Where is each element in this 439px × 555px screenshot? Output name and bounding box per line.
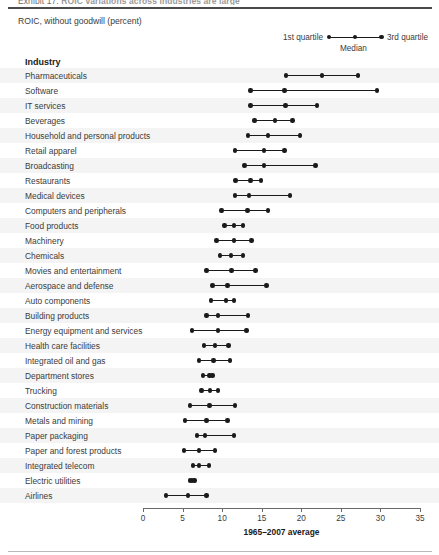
industry-column-header: Industry	[25, 57, 61, 67]
row-median-dot-icon	[225, 283, 229, 287]
x-axis-tick-label: 20	[297, 514, 306, 523]
table-row[interactable]: Department stores	[0, 368, 439, 383]
table-row[interactable]: Building products	[0, 308, 439, 323]
table-row[interactable]: Construction materials	[0, 398, 439, 413]
row-q1-dot-icon	[164, 493, 168, 497]
row-range-track	[143, 353, 420, 368]
table-row[interactable]: Auto components	[0, 293, 439, 308]
table-row[interactable]: Energy equipment and services	[0, 323, 439, 338]
row-median-dot-icon	[211, 358, 215, 362]
x-axis-tick	[341, 508, 342, 512]
x-axis-tick-label: 5	[180, 514, 185, 523]
row-range-track	[143, 98, 420, 113]
row-median-dot-icon	[207, 403, 211, 407]
table-row[interactable]: Airlines	[0, 488, 439, 503]
row-q3-dot-icon	[298, 133, 302, 137]
row-q1-dot-icon	[195, 433, 199, 437]
x-axis-tick-label: 10	[218, 514, 227, 523]
row-range-bar	[248, 135, 299, 136]
table-row[interactable]: Integrated oil and gas	[0, 353, 439, 368]
table-row[interactable]: Movies and entertainment	[0, 263, 439, 278]
table-row[interactable]: Restaurants	[0, 173, 439, 188]
row-range-bar	[206, 315, 248, 316]
row-range-track	[143, 68, 420, 83]
row-q3-dot-icon	[259, 178, 263, 182]
table-row[interactable]: Metals and mining	[0, 413, 439, 428]
x-axis-tick-label: 25	[336, 514, 345, 523]
row-range-track	[143, 383, 420, 398]
row-q3-dot-icon	[204, 493, 208, 497]
legend-range-marker	[326, 33, 384, 42]
row-range-track	[143, 203, 420, 218]
table-row[interactable]: Household and personal products	[0, 128, 439, 143]
table-row[interactable]: Broadcasting	[0, 158, 439, 173]
row-industry-label: Integrated oil and gas	[25, 356, 106, 366]
row-range-track	[143, 488, 420, 503]
table-row[interactable]: Pharmaceuticals	[0, 68, 439, 83]
row-median-dot-icon	[224, 298, 228, 302]
table-row[interactable]: Paper and forest products	[0, 443, 439, 458]
row-median-dot-icon	[186, 493, 190, 497]
row-industry-label: Department stores	[25, 371, 94, 381]
row-range-track	[143, 128, 420, 143]
table-row[interactable]: IT services	[0, 98, 439, 113]
row-industry-label: Broadcasting	[25, 161, 74, 171]
row-industry-label: Building products	[25, 311, 89, 321]
row-q3-dot-icon	[216, 388, 220, 392]
row-q3-dot-icon	[225, 418, 229, 422]
row-median-dot-icon	[208, 388, 212, 392]
row-q3-dot-icon	[241, 253, 245, 257]
legend-median-label: Median	[340, 44, 367, 53]
row-range-track	[143, 143, 420, 158]
row-industry-label: Household and personal products	[25, 131, 150, 141]
row-range-bar	[235, 150, 285, 151]
row-q1-dot-icon	[210, 283, 214, 287]
row-industry-label: Medical devices	[25, 191, 85, 201]
table-row[interactable]: Computers and peripherals	[0, 203, 439, 218]
x-axis-tick	[420, 508, 421, 512]
table-row[interactable]: Chemicals	[0, 248, 439, 263]
x-axis-tick	[183, 508, 184, 512]
row-median-dot-icon	[229, 268, 233, 272]
row-industry-label: Food products	[25, 221, 79, 231]
exhibit-label: Exhibit 17.	[18, 0, 59, 5]
row-range-bar	[244, 165, 315, 166]
row-median-dot-icon	[197, 448, 201, 452]
row-q3-dot-icon	[356, 73, 360, 77]
table-row[interactable]: Beverages	[0, 113, 439, 128]
exhibit-title: Exhibit 17. ROIC variations across indus…	[18, 0, 428, 5]
x-axis-tick-label: 15	[257, 514, 266, 523]
row-range-track	[143, 413, 420, 428]
row-range-track	[143, 323, 420, 338]
row-range-track	[143, 368, 420, 383]
table-row[interactable]: Paper packaging	[0, 428, 439, 443]
x-axis-title: 1965–2007 average	[143, 527, 420, 537]
row-industry-label: Paper and forest products	[25, 446, 121, 456]
table-row[interactable]: Integrated telecom	[0, 458, 439, 473]
row-range-track	[143, 248, 420, 263]
table-row[interactable]: Machinery	[0, 233, 439, 248]
table-row[interactable]: Food products	[0, 218, 439, 233]
row-range-bar	[235, 195, 290, 196]
row-median-dot-icon	[248, 178, 252, 182]
row-range-track	[143, 398, 420, 413]
row-q3-dot-icon	[207, 463, 211, 467]
table-row[interactable]: Electric utilities	[0, 473, 439, 488]
bottom-divider	[8, 551, 432, 552]
row-range-track	[143, 473, 420, 488]
table-row[interactable]: Retail apparel	[0, 143, 439, 158]
row-range-track	[143, 428, 420, 443]
table-row[interactable]: Software	[0, 83, 439, 98]
row-range-track	[143, 458, 420, 473]
row-median-dot-icon	[213, 343, 217, 347]
row-q1-dot-icon	[182, 448, 186, 452]
row-median-dot-icon	[216, 328, 220, 332]
row-q1-dot-icon	[191, 463, 195, 467]
row-industry-label: Retail apparel	[25, 146, 77, 156]
row-range-track	[143, 233, 420, 248]
table-row[interactable]: Medical devices	[0, 188, 439, 203]
row-median-dot-icon	[216, 313, 220, 317]
table-row[interactable]: Aerospace and defense	[0, 278, 439, 293]
table-row[interactable]: Trucking	[0, 383, 439, 398]
table-row[interactable]: Health care facilities	[0, 338, 439, 353]
